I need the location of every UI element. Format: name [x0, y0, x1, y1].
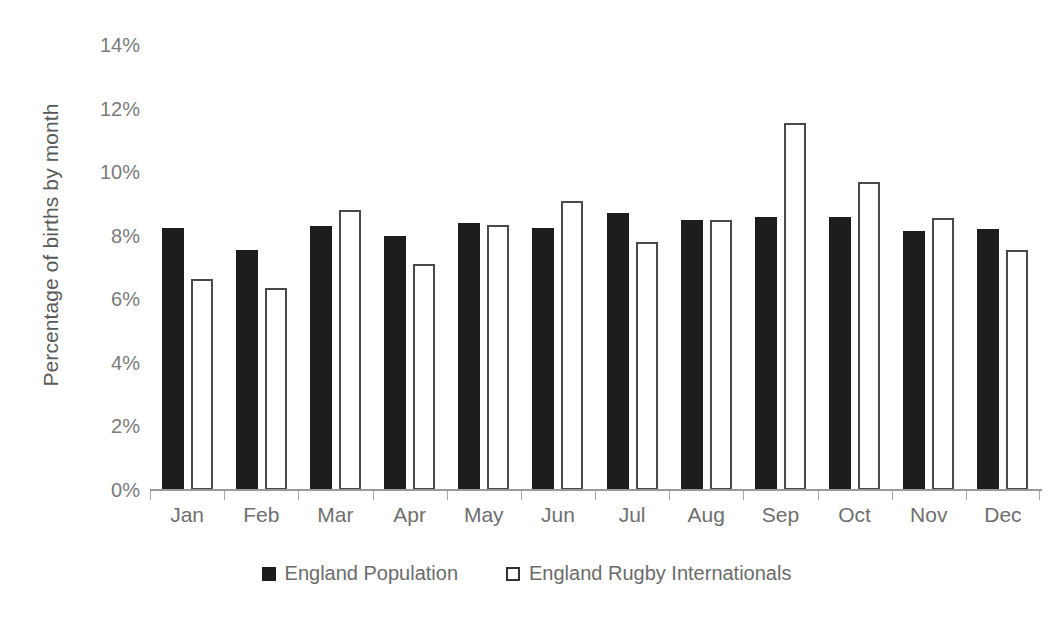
x-axis-tick-label-jul: Jul	[595, 503, 669, 527]
bar-oct-population	[829, 217, 851, 490]
x-axis-tick-labels: JanFebMarAprMayJunJulAugSepOctNovDec	[150, 503, 1040, 537]
bar-nov-population	[903, 231, 925, 490]
bar-group	[595, 45, 669, 490]
bar-apr-rugby	[413, 264, 435, 490]
y-axis-tick-label: 12%	[42, 97, 140, 120]
bar-group	[298, 45, 372, 490]
legend-swatch-icon	[262, 567, 276, 581]
x-axis-tick-label-sep: Sep	[743, 503, 817, 527]
x-axis-tick-label-mar: Mar	[298, 503, 372, 527]
bar-apr-population	[384, 236, 406, 490]
legend-item-rugby[interactable]: England Rugby Internationals	[506, 562, 791, 585]
x-axis-tick-label-dec: Dec	[966, 503, 1040, 527]
x-axis-tick-label-nov: Nov	[892, 503, 966, 527]
plot-area	[150, 45, 1040, 490]
x-axis-tick-label-oct: Oct	[818, 503, 892, 527]
x-axis-tick-label-feb: Feb	[224, 503, 298, 527]
x-axis-tick-label-jun: Jun	[521, 503, 595, 527]
bar-sep-rugby	[784, 123, 806, 490]
bar-oct-rugby	[858, 182, 880, 490]
bar-dec-population	[977, 229, 999, 490]
bar-jul-rugby	[636, 242, 658, 490]
legend-label: England Population	[285, 562, 458, 585]
bar-aug-population	[681, 220, 703, 490]
x-axis-tick-label-apr: Apr	[373, 503, 447, 527]
bar-group	[669, 45, 743, 490]
bar-group	[818, 45, 892, 490]
bar-jul-population	[607, 213, 629, 490]
x-axis-tick-mark	[298, 491, 299, 500]
bar-may-population	[458, 223, 480, 490]
bar-group	[892, 45, 966, 490]
bar-nov-rugby	[932, 218, 954, 490]
x-axis-tick-mark	[743, 491, 744, 500]
bar-group	[373, 45, 447, 490]
x-axis-tick-label-may: May	[447, 503, 521, 527]
y-axis-tick-label: 10%	[42, 161, 140, 184]
bar-mar-rugby	[339, 210, 361, 490]
chart-legend: England PopulationEngland Rugby Internat…	[0, 562, 1053, 585]
x-axis-tick-mark	[224, 491, 225, 500]
x-axis-tick-marks	[150, 491, 1040, 500]
x-axis-tick-mark	[595, 491, 596, 500]
legend-label: England Rugby Internationals	[529, 562, 791, 585]
bar-group	[521, 45, 595, 490]
y-axis-tick-label: 0%	[42, 479, 140, 502]
y-axis-tick-label: 4%	[42, 351, 140, 374]
bar-jan-rugby	[191, 279, 213, 490]
bar-jun-population	[532, 228, 554, 490]
bar-group	[966, 45, 1040, 490]
bar-mar-population	[310, 226, 332, 490]
x-axis-tick-mark	[447, 491, 448, 500]
x-axis-tick-label-jan: Jan	[150, 503, 224, 527]
x-axis-tick-mark	[669, 491, 670, 500]
bar-feb-population	[236, 250, 258, 490]
bar-group	[150, 45, 224, 490]
bar-feb-rugby	[265, 288, 287, 490]
x-axis-tick-mark	[373, 491, 374, 500]
y-axis-tick-labels: 14%12%10%8%6%4%2%0%	[42, 0, 140, 635]
bar-aug-rugby	[710, 220, 732, 490]
bar-group	[743, 45, 817, 490]
x-axis-tick-mark	[150, 491, 151, 500]
legend-swatch-icon	[506, 567, 520, 581]
bar-jan-population	[162, 228, 184, 490]
x-axis-tick-mark	[818, 491, 819, 500]
bar-jun-rugby	[561, 201, 583, 490]
x-axis-tick-mark	[892, 491, 893, 500]
bar-chart: Percentage of births by month 14%12%10%8…	[0, 0, 1053, 635]
x-axis-tick-mark	[966, 491, 967, 500]
y-axis-tick-label: 6%	[42, 288, 140, 311]
y-axis-tick-label: 2%	[42, 415, 140, 438]
bar-group	[447, 45, 521, 490]
bar-dec-rugby	[1006, 250, 1028, 490]
y-axis-tick-label: 8%	[42, 224, 140, 247]
bar-group	[224, 45, 298, 490]
bar-may-rugby	[487, 225, 509, 490]
bar-sep-population	[755, 217, 777, 490]
x-axis-tick-mark	[1039, 491, 1040, 500]
legend-item-population[interactable]: England Population	[262, 562, 458, 585]
x-axis-tick-label-aug: Aug	[669, 503, 743, 527]
x-axis-tick-mark	[521, 491, 522, 500]
y-axis-tick-label: 14%	[42, 34, 140, 57]
